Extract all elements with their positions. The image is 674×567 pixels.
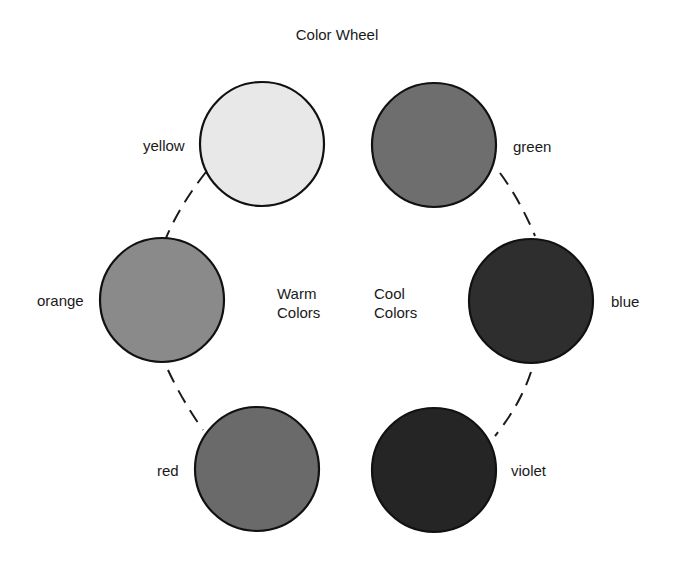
label-violet: violet (511, 462, 546, 480)
warm-line1: Warm (277, 284, 320, 303)
cool-line1: Cool (374, 284, 417, 303)
circle-green (372, 83, 496, 207)
connector-blue-violet (495, 372, 531, 436)
warm-colors-label: Warm Colors (277, 284, 320, 322)
label-orange: orange (37, 292, 84, 310)
cool-line2: Colors (374, 303, 417, 322)
cool-colors-label: Cool Colors (374, 284, 417, 322)
circle-blue (469, 239, 593, 363)
connector-green-blue (500, 173, 535, 236)
circle-yellow (200, 82, 324, 206)
connector-orange-red (168, 370, 203, 430)
circle-red (195, 407, 319, 531)
label-red: red (157, 462, 179, 480)
label-yellow: yellow (143, 137, 185, 155)
color-wheel-diagram (0, 0, 674, 567)
connector-yellow-orange (166, 172, 206, 238)
circle-orange (100, 238, 224, 362)
circle-violet (372, 408, 496, 532)
label-green: green (513, 138, 551, 156)
label-blue: blue (611, 293, 639, 311)
warm-line2: Colors (277, 303, 320, 322)
